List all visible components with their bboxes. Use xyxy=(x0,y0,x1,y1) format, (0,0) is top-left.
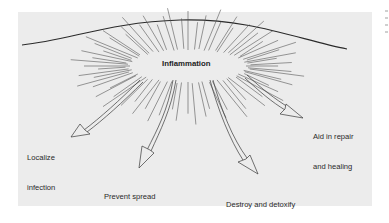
outcome-line-1: Localize xyxy=(27,153,55,163)
arrow-prevent-spread xyxy=(139,80,176,168)
outcome-line-2: infection xyxy=(27,183,55,193)
skin-surface-curve xyxy=(22,20,347,49)
outcome-localize-infection: Localize infection xyxy=(27,133,55,203)
outcome-line-1: Destroy and detoxify xyxy=(226,200,295,210)
outcome-prevent-spread: Prevent spread of pathogens xyxy=(104,172,156,223)
arrow-localize-infection xyxy=(71,80,143,137)
outcome-line-1: Aid in repair xyxy=(313,132,354,142)
arrow-aid-repair xyxy=(245,75,303,118)
outcome-line-2: of pathogens xyxy=(104,222,156,223)
inflammation-title: Inflammation xyxy=(162,59,211,68)
outcome-line-2: and healing xyxy=(313,162,354,172)
outcome-destroy-detoxify: Destroy and detoxify pathogens xyxy=(226,180,295,223)
outcome-aid-repair: Aid in repair and healing xyxy=(313,112,354,182)
outcome-line-1: Prevent spread xyxy=(104,192,156,202)
page-edge-marks xyxy=(385,10,388,50)
